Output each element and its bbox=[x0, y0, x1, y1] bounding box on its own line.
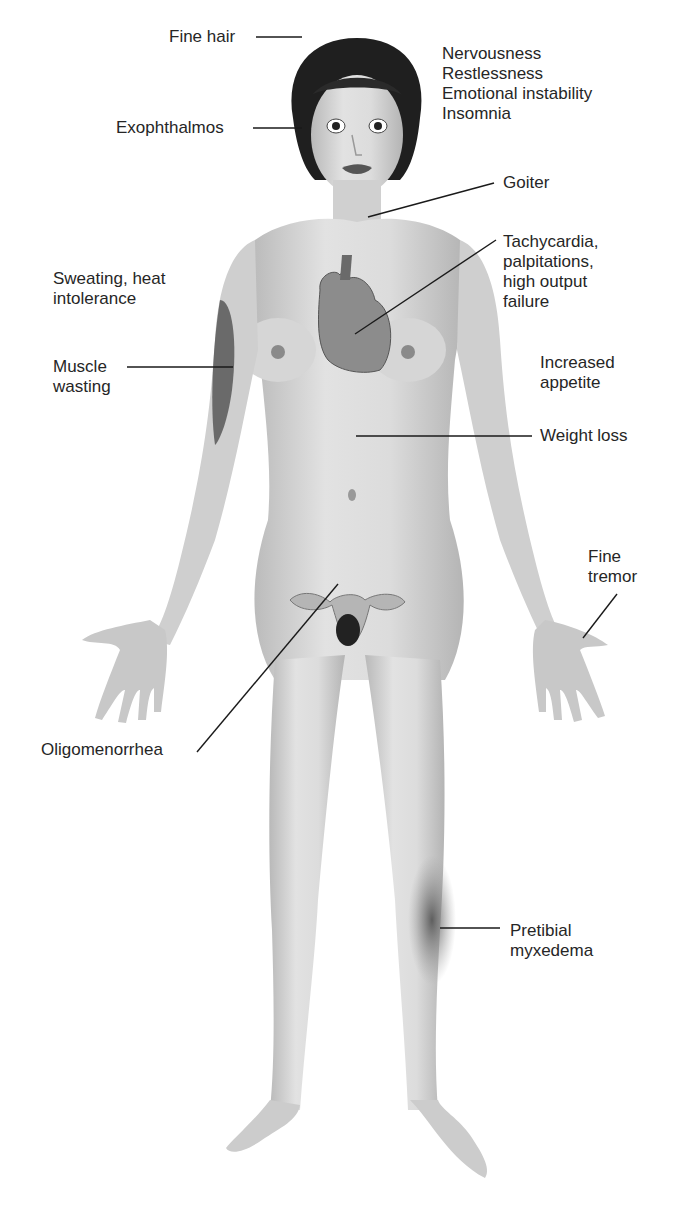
label-line: Pretibial bbox=[510, 921, 593, 941]
label-appetite: Increasedappetite bbox=[540, 353, 615, 393]
label-line: Insomnia bbox=[442, 104, 592, 124]
right-hand bbox=[533, 620, 608, 722]
label-muscle: Musclewasting bbox=[53, 357, 111, 397]
leader-tremor bbox=[583, 594, 617, 638]
left-leg bbox=[226, 655, 345, 1152]
label-line: appetite bbox=[540, 373, 615, 393]
label-line: tremor bbox=[588, 567, 637, 587]
left-arm bbox=[82, 240, 258, 723]
pretibial-myxedema-area bbox=[408, 855, 456, 985]
label-neuro: NervousnessRestlessnessEmotional instabi… bbox=[442, 44, 592, 124]
label-line: Exophthalmos bbox=[116, 118, 224, 138]
label-line: myxedema bbox=[510, 941, 593, 961]
label-line: Sweating, heat bbox=[53, 269, 165, 289]
leader-goiter bbox=[368, 183, 494, 217]
label-exophthalmos: Exophthalmos bbox=[116, 118, 224, 138]
label-tremor: Finetremor bbox=[588, 547, 637, 587]
label-sweating: Sweating, heatintolerance bbox=[53, 269, 165, 309]
label-cardiac: Tachycardia,palpitations,high outputfail… bbox=[503, 232, 598, 312]
face bbox=[311, 75, 403, 195]
label-line: Goiter bbox=[503, 173, 549, 193]
right-arm bbox=[457, 240, 608, 722]
label-line: Oligomenorrhea bbox=[41, 740, 163, 760]
label-line: Fine bbox=[588, 547, 637, 567]
label-line: Nervousness bbox=[442, 44, 592, 64]
label-weight: Weight loss bbox=[540, 426, 628, 446]
label-myxedema: Pretibialmyxedema bbox=[510, 921, 593, 961]
label-line: Muscle bbox=[53, 357, 111, 377]
label-fine-hair: Fine hair bbox=[169, 27, 235, 47]
right-foot bbox=[410, 1100, 487, 1178]
label-line: failure bbox=[503, 292, 598, 312]
label-line: Restlessness bbox=[442, 64, 592, 84]
label-goiter: Goiter bbox=[503, 173, 549, 193]
label-line: Emotional instability bbox=[442, 84, 592, 104]
label-line: palpitations, bbox=[503, 252, 598, 272]
anatomy-figure bbox=[0, 0, 691, 1207]
left-foot bbox=[226, 1100, 300, 1152]
label-line: Tachycardia, bbox=[503, 232, 598, 252]
right-leg bbox=[365, 655, 487, 1178]
label-line: Increased bbox=[540, 353, 615, 373]
label-line: Fine hair bbox=[169, 27, 235, 47]
label-line: intolerance bbox=[53, 289, 165, 309]
label-line: high output bbox=[503, 272, 598, 292]
label-line: Weight loss bbox=[540, 426, 628, 446]
label-oligo: Oligomenorrhea bbox=[41, 740, 163, 760]
label-line: wasting bbox=[53, 377, 111, 397]
left-hand bbox=[82, 620, 167, 723]
